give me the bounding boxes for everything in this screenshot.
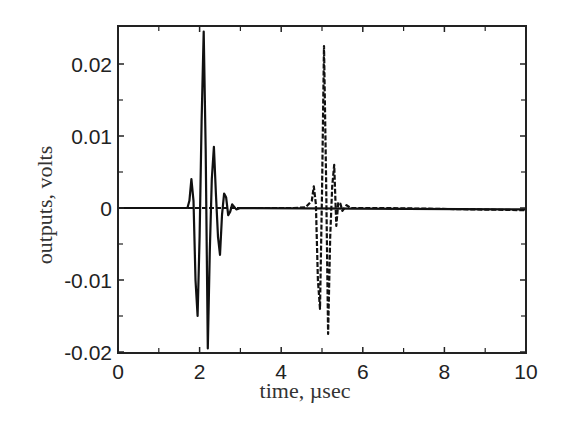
x-tick-label: 0 (112, 360, 124, 383)
y-axis-label: outputs, volts (32, 146, 57, 265)
series-line-2 (118, 46, 526, 334)
y-tick-label: -0.01 (64, 269, 112, 292)
y-tick-label: 0 (100, 197, 112, 220)
x-axis-label: time, µsec (260, 378, 351, 403)
x-tick-label: 10 (514, 360, 537, 383)
x-tick-label: 6 (357, 360, 369, 383)
y-tick-label: 0.02 (71, 53, 112, 76)
y-tick-label: -0.02 (64, 341, 112, 364)
chart: 0246810 -0.02-0.0100.010.02 time, µsec o… (0, 0, 566, 429)
x-tick-label: 8 (439, 360, 451, 383)
plot-area (118, 32, 526, 349)
y-tick-label: 0.01 (71, 125, 112, 148)
x-tick-label: 2 (194, 360, 206, 383)
plot-frame (118, 26, 526, 353)
